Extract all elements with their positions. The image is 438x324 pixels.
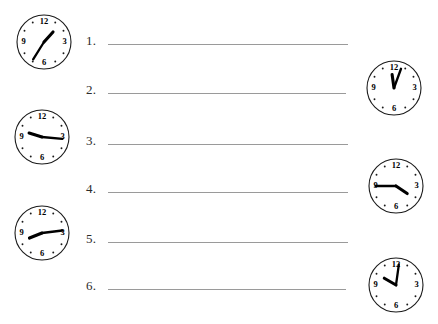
- clock-numeral-9: 9: [371, 82, 375, 92]
- hour-tick-dot: [22, 221, 24, 223]
- hour-tick-dot: [54, 61, 56, 63]
- question-row-1: 1.: [86, 33, 348, 49]
- question-number: 6.: [86, 278, 106, 294]
- question-number: 1.: [86, 33, 106, 49]
- hour-tick-dot: [415, 295, 417, 297]
- answer-line[interactable]: [108, 44, 348, 45]
- hour-tick-dot: [406, 265, 408, 267]
- question-row-5: 5.: [86, 231, 348, 247]
- hour-tick-dot: [30, 213, 32, 215]
- hour-tick-dot: [406, 205, 408, 207]
- answer-line[interactable]: [108, 289, 346, 290]
- hour-tick-dot: [24, 30, 26, 32]
- clock-numeral-12: 12: [40, 16, 49, 26]
- hour-tick-dot: [52, 213, 54, 215]
- hour-tick-dot: [54, 22, 56, 24]
- clock-numeral-9: 9: [19, 227, 23, 237]
- hour-tick-dot: [413, 98, 415, 100]
- hour-tick-dot: [413, 76, 415, 78]
- hour-tick-dot: [404, 68, 406, 70]
- hour-tick-dot: [376, 174, 378, 176]
- clock-numeral-3: 3: [414, 180, 418, 190]
- hour-tick-dot: [61, 243, 63, 245]
- clock-numeral-9: 9: [19, 131, 23, 141]
- hour-tick-dot: [404, 107, 406, 109]
- clock-face-6: 12369: [362, 251, 430, 319]
- question-number: 4.: [86, 181, 106, 197]
- hour-tick-dot: [376, 295, 378, 297]
- answer-line[interactable]: [108, 144, 348, 145]
- clock-face-4: 12369: [360, 54, 428, 122]
- hour-tick-dot: [406, 304, 408, 306]
- hour-tick-dot: [22, 147, 24, 149]
- hour-tick-dot: [406, 166, 408, 168]
- question-number: 3.: [86, 133, 106, 149]
- question-row-3: 3.: [86, 133, 348, 149]
- hour-tick-dot: [52, 156, 54, 158]
- hour-tick-dot: [61, 221, 63, 223]
- hour-tick-dot: [30, 252, 32, 254]
- hour-tick-dot: [415, 196, 417, 198]
- hour-tick-dot: [382, 107, 384, 109]
- clock-numeral-6: 6: [42, 57, 46, 67]
- clock-numeral-3: 3: [412, 82, 416, 92]
- answer-line[interactable]: [108, 242, 348, 243]
- hour-tick-dot: [376, 196, 378, 198]
- hour-tick-dot: [384, 205, 386, 207]
- clock-numeral-3: 3: [62, 36, 66, 46]
- clock-numeral-3: 3: [414, 279, 418, 289]
- clock-numeral-12: 12: [38, 207, 47, 217]
- hour-tick-dot: [63, 52, 65, 54]
- clock-face-2: 12369: [8, 103, 76, 171]
- clock-numeral-6: 6: [392, 103, 396, 113]
- hour-tick-dot: [52, 117, 54, 119]
- hour-tick-dot: [24, 52, 26, 54]
- question-row-2: 2.: [86, 82, 346, 98]
- answer-line[interactable]: [108, 192, 348, 193]
- hour-tick-dot: [376, 273, 378, 275]
- clock-numeral-12: 12: [392, 160, 401, 170]
- hour-tick-dot: [374, 76, 376, 78]
- clock-numeral-12: 12: [390, 62, 399, 72]
- clock-numeral-3: 3: [60, 227, 64, 237]
- hour-tick-dot: [32, 61, 34, 63]
- hour-tick-dot: [30, 156, 32, 158]
- hour-tick-dot: [63, 30, 65, 32]
- hour-tick-dot: [382, 68, 384, 70]
- clock-numeral-9: 9: [373, 279, 377, 289]
- hour-tick-dot: [415, 273, 417, 275]
- clock-numeral-6: 6: [394, 300, 398, 310]
- hour-tick-dot: [22, 243, 24, 245]
- clock-numeral-6: 6: [40, 152, 44, 162]
- hour-tick-dot: [32, 22, 34, 24]
- hour-tick-dot: [384, 166, 386, 168]
- clock-face-1: 12369: [10, 8, 78, 76]
- clock-face-5: 12369: [362, 152, 430, 220]
- hour-tick-dot: [61, 125, 63, 127]
- hour-tick-dot: [374, 98, 376, 100]
- question-number: 2.: [86, 82, 106, 98]
- clock-numeral-9: 9: [21, 36, 25, 46]
- clock-numeral-12: 12: [38, 111, 47, 121]
- question-number: 5.: [86, 231, 106, 247]
- answer-line[interactable]: [108, 93, 346, 94]
- hour-tick-dot: [22, 125, 24, 127]
- hour-tick-dot: [384, 304, 386, 306]
- clock-face-3: 12369: [8, 199, 76, 267]
- hour-tick-dot: [384, 265, 386, 267]
- worksheet-page: 1236912369123691236912369123691.2.3.4.5.…: [0, 0, 438, 324]
- hour-tick-dot: [415, 174, 417, 176]
- clock-numeral-6: 6: [40, 248, 44, 258]
- hour-tick-dot: [61, 147, 63, 149]
- question-row-4: 4.: [86, 181, 348, 197]
- clock-numeral-6: 6: [394, 201, 398, 211]
- hour-tick-dot: [52, 252, 54, 254]
- hour-tick-dot: [30, 117, 32, 119]
- question-row-6: 6.: [86, 278, 346, 294]
